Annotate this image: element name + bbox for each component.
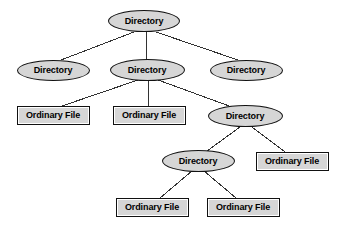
tree-node-label: Ordinary File — [125, 203, 179, 212]
tree-edge — [156, 32, 238, 60]
tree-node-file[interactable]: Ordinary File — [113, 106, 186, 125]
tree-edge — [148, 80, 149, 106]
tree-node-directory[interactable]: Directory — [110, 59, 185, 81]
tree-node-file[interactable]: Ordinary File — [256, 152, 329, 171]
tree-edge — [62, 80, 138, 106]
tree-node-label: Directory — [34, 66, 73, 75]
tree-edge — [158, 80, 232, 107]
tree-edge — [204, 171, 236, 198]
tree-node-directory[interactable]: Directory — [162, 150, 235, 172]
tree-node-directory[interactable]: Directory — [108, 10, 180, 32]
directory-tree-diagram: DirectoryDirectoryDirectoryDirectoryOrdi… — [0, 0, 345, 230]
tree-node-directory[interactable]: Directory — [208, 105, 283, 127]
tree-node-directory[interactable]: Directory — [210, 60, 283, 81]
tree-node-file[interactable]: Ordinary File — [17, 106, 90, 125]
tree-node-directory[interactable]: Directory — [17, 60, 90, 81]
tree-edge — [252, 127, 285, 152]
tree-edge — [61, 32, 134, 60]
tree-node-label: Directory — [128, 66, 167, 75]
tree-node-label: Directory — [179, 157, 218, 166]
tree-edge — [146, 32, 147, 59]
tree-edge — [207, 127, 240, 151]
tree-node-label: Directory — [125, 17, 164, 26]
tree-node-file[interactable]: Ordinary File — [207, 198, 280, 217]
tree-node-file[interactable]: Ordinary File — [116, 198, 189, 217]
tree-node-label: Directory — [226, 112, 265, 121]
tree-node-label: Ordinary File — [26, 111, 80, 120]
tree-node-label: Ordinary File — [216, 203, 270, 212]
tree-node-label: Ordinary File — [122, 111, 176, 120]
tree-edge — [160, 171, 192, 198]
tree-node-label: Ordinary File — [265, 157, 319, 166]
tree-node-label: Directory — [227, 66, 266, 75]
